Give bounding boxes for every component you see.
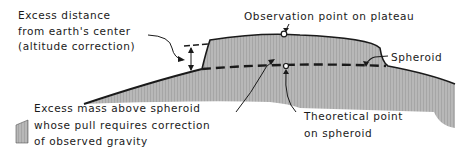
- excess-mass-label-line3: of observed gravity: [34, 134, 148, 148]
- legend-swatch: [16, 120, 28, 143]
- altitude-arrow-head-top: [188, 47, 194, 53]
- altitude-leader: [148, 35, 183, 60]
- altitude-leader-head: [178, 56, 185, 62]
- observation-point-marker: [281, 31, 287, 37]
- altitude-arrow-head-bottom: [188, 65, 194, 71]
- spheroid-label: Spheroid: [391, 50, 442, 64]
- diagram-canvas: Excess distance from earth's center (alt…: [0, 0, 468, 155]
- theoretical-point-label-line1: Theoretical point: [304, 109, 403, 123]
- altitude-label-line1: Excess distance: [18, 8, 111, 22]
- altitude-label-line3: (altitude correction): [18, 39, 135, 53]
- theoretical-point-label-line2: on spheroid: [304, 126, 372, 140]
- altitude-reference-line: [184, 44, 208, 46]
- observation-point-label: Observation point on plateau: [244, 9, 414, 23]
- excess-mass-label-line1: Excess mass above spheroid: [34, 101, 201, 115]
- excess-mass-label-line2: whose pull requires correction: [34, 118, 210, 132]
- altitude-label-line2: from earth's center: [18, 24, 131, 38]
- theoretical-point-marker: [284, 64, 289, 69]
